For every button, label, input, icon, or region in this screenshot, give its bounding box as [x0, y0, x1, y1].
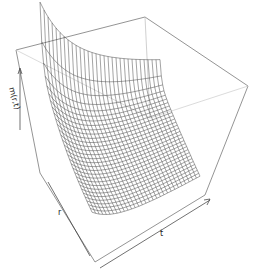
- t-axis-label: t: [160, 229, 163, 238]
- surface-mesh: [40, 2, 200, 214]
- surface-plot: m(r,t) r t: [0, 0, 260, 274]
- bounding-box: [16, 17, 248, 262]
- r-axis-label: r: [58, 208, 62, 217]
- z-axis-label: m(r,t): [7, 86, 22, 111]
